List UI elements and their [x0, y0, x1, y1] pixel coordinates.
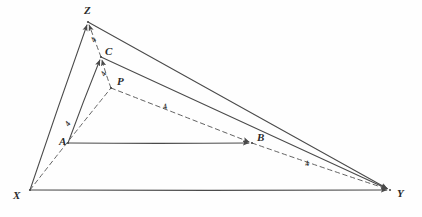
- dashed-edges-group: [30, 25, 387, 190]
- edge-x-z: [30, 25, 87, 190]
- solid-edges-group: [30, 22, 387, 190]
- vertex-label-x: X: [13, 190, 21, 201]
- geometry-diagram: ZCPABXY 44444: [0, 0, 422, 217]
- vertex-label-z: Z: [84, 5, 91, 16]
- vertex-dot-c: [100, 56, 102, 58]
- vertex-dot-x: [29, 189, 31, 191]
- vertex-label-b: B: [257, 132, 265, 143]
- vertex-dot-y: [389, 189, 391, 191]
- vertex-dot-b: [251, 142, 253, 144]
- vertex-dot-p: [110, 87, 112, 89]
- dashed-p-b: [111, 88, 249, 142]
- dashed-x-p: [30, 88, 111, 190]
- edge-z-y: [88, 22, 387, 188]
- vertex-dot-a: [67, 142, 69, 144]
- edge-a-c: [68, 60, 100, 143]
- vertex-label-p: P: [117, 76, 124, 87]
- vertex-label-a: A: [59, 136, 67, 147]
- vertex-dot-z: [87, 21, 89, 23]
- dashed-b-y: [252, 143, 387, 189]
- vertex-label-c: C: [105, 46, 113, 57]
- diagram-canvas: [0, 0, 422, 217]
- vertex-label-y: Y: [397, 188, 404, 199]
- edge-c-y: [101, 57, 387, 189]
